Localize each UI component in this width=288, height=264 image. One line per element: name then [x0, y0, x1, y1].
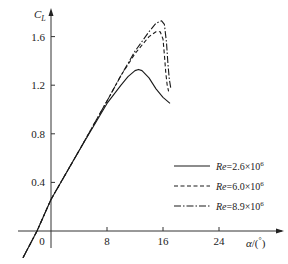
- y-tick-label: 1.2: [31, 79, 45, 91]
- y-tick-label: 0.4: [31, 176, 45, 188]
- y-tick-label: 1.6: [31, 31, 45, 43]
- x-tick-label: 16: [158, 235, 170, 247]
- y-axis-label: CL: [34, 8, 46, 23]
- axes: [18, 12, 282, 248]
- y-axis-arrow-icon: [49, 8, 54, 16]
- legend-label: Re=8.9×106: [215, 200, 264, 212]
- series: [23, 21, 171, 258]
- y-tick-label: 0.8: [31, 128, 45, 140]
- series-line-dashdot: [23, 21, 171, 258]
- lift-coefficient-chart: 081624 0.40.81.21.6 CL α/(°) Re=2.6×106R…: [0, 0, 288, 264]
- x-tick-label: 24: [214, 235, 226, 247]
- x-ticks: 081624: [39, 227, 225, 247]
- x-axis-arrow-icon: [276, 229, 284, 234]
- series-line-solid: [23, 69, 170, 257]
- legend: Re=2.6×106Re=6.0×106Re=8.9×106: [174, 160, 264, 212]
- x-axis-label: α/(°): [246, 236, 266, 250]
- x-tick-label: 0: [39, 235, 45, 247]
- legend-label: Re=6.0×106: [215, 180, 264, 192]
- series-line-dashed: [23, 32, 169, 258]
- x-tick-label: 8: [104, 235, 110, 247]
- legend-label: Re=2.6×106: [215, 160, 264, 172]
